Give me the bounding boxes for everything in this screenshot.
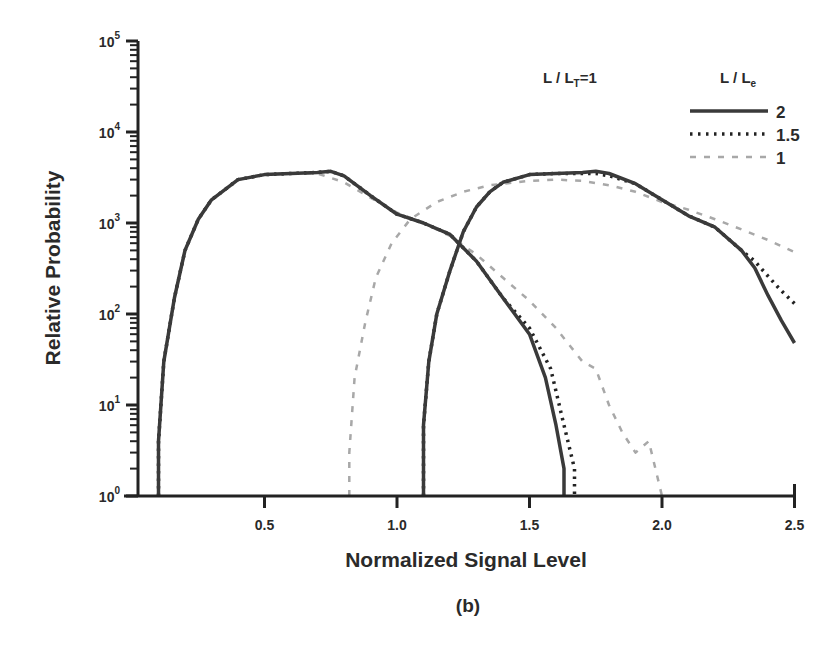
series-line-dotted <box>159 171 575 496</box>
svg-text:1.5: 1.5 <box>776 126 800 145</box>
x-axis-title: Normalized Signal Level <box>345 548 587 571</box>
series-line-dashed <box>159 174 663 497</box>
y-tick-label: 101 <box>99 394 121 414</box>
series-line-dashed <box>349 180 794 496</box>
y-tick-label: 105 <box>99 30 121 50</box>
legend-entry-solid: 2 <box>690 103 785 122</box>
x-tick-label: 0.5 <box>255 517 275 533</box>
chart: 100101102103104105 0.51.01.52.02.5 Relat… <box>0 0 836 653</box>
y-tick-label: 103 <box>99 212 121 232</box>
y-axis-title: Relative Probability <box>41 170 64 365</box>
x-tick-label: 1.0 <box>387 517 407 533</box>
legend-title: L / Le <box>720 69 757 89</box>
x-tick-label: 2.5 <box>785 517 805 533</box>
x-tick-label: 2.0 <box>652 517 672 533</box>
svg-text:L / LT=1: L / LT=1 <box>543 69 597 89</box>
panel-label: (b) <box>456 595 480 616</box>
svg-text:1: 1 <box>776 149 785 168</box>
svg-text:2: 2 <box>776 103 785 122</box>
y-tick-label: 102 <box>99 303 121 323</box>
y-tick-labels: 100101102103104105 <box>99 30 121 505</box>
series-line-dotted <box>424 174 795 497</box>
annotation-l-over-lt: L / LT=1 <box>543 69 597 89</box>
series-line-solid <box>424 171 795 496</box>
data-series-group <box>159 171 795 496</box>
legend: L / Le 2 1.5 1 <box>690 69 800 168</box>
x-tick-labels: 0.51.01.52.02.5 <box>255 517 805 533</box>
legend-entry-dashed: 1 <box>690 149 785 168</box>
legend-entry-dotted: 1.5 <box>690 126 800 145</box>
series-line-solid <box>159 171 565 496</box>
x-tick-label: 1.5 <box>520 517 540 533</box>
y-tick-label: 100 <box>99 485 121 505</box>
y-tick-label: 104 <box>99 121 121 141</box>
